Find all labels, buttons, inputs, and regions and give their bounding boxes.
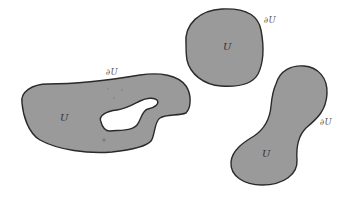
interior-label: U (60, 112, 69, 123)
boundary-label: ∂U (106, 67, 118, 77)
speck (102, 138, 105, 141)
region-left: U ∂U (22, 67, 190, 153)
interior-label: U (223, 41, 232, 52)
interior-label: U (262, 148, 271, 159)
speck (107, 88, 109, 90)
boundary-label: ∂U (264, 15, 276, 25)
region-left-shape (22, 74, 190, 153)
boundary-label: ∂U (320, 117, 332, 127)
speck (113, 97, 115, 99)
diagram-canvas: U ∂U U ∂U U ∂U (0, 0, 346, 197)
speck (121, 89, 123, 91)
region-top-right: U ∂U (186, 9, 277, 86)
